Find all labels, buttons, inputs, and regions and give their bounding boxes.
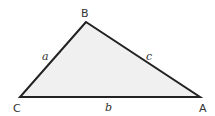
vertex-label-a: A	[199, 102, 207, 115]
vertex-label-c: C	[13, 102, 21, 115]
side-label-c: c	[146, 50, 152, 63]
vertex-label-b: B	[81, 7, 89, 20]
side-label-a: a	[42, 50, 49, 63]
triangle-diagram: B C A a b c	[0, 0, 215, 116]
side-label-b: b	[105, 101, 112, 114]
